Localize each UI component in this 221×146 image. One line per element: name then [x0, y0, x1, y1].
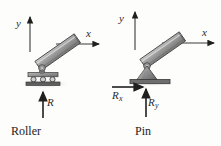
- pin-force-label-Ry: Ry: [148, 97, 158, 110]
- pin-force-Rx-symbol: R: [112, 89, 119, 101]
- roller-x-axis-label: x: [86, 28, 91, 39]
- roller-lug: [39, 71, 45, 73]
- pin-panel: y x Rx Ry Pin: [110, 0, 221, 146]
- roller-panel: y x R Roller: [0, 0, 110, 146]
- pin-force-Rx-subscript: x: [119, 94, 123, 103]
- pin-force-label-Rx: Rx: [112, 90, 122, 103]
- roller-y-axis-label: y: [16, 18, 21, 29]
- roller-hinge-pin: [41, 67, 44, 70]
- pin-force-Ry-symbol: R: [148, 96, 155, 108]
- roller-wheels: [31, 77, 55, 82]
- roller-caption: Roller: [11, 125, 41, 137]
- pin-force-Ry-subscript: y: [155, 101, 159, 110]
- pin-x-axis-label: x: [202, 27, 207, 38]
- pin-y-axis-label: y: [119, 13, 124, 24]
- pin-diagram-graphics: [110, 0, 221, 146]
- pin-caption: Pin: [135, 125, 151, 137]
- pin-ground-base: [130, 80, 170, 84]
- roller-ground-bar: [26, 82, 60, 85]
- support-reactions-figure: y x R Roller: [0, 0, 221, 146]
- roller-force-label-R: R: [47, 97, 54, 108]
